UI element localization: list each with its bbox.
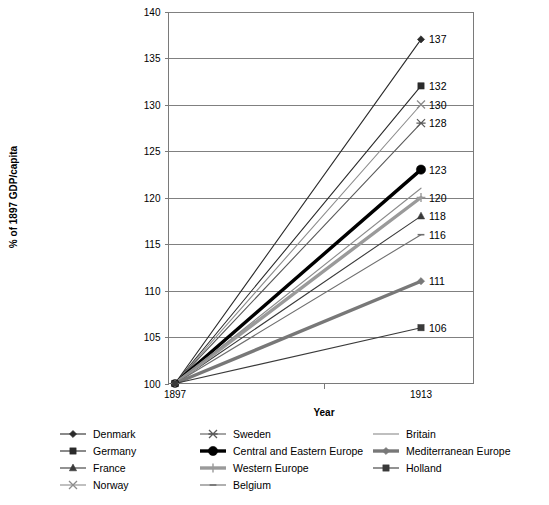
- series-line-belgium: [175, 235, 421, 384]
- gridlines-group: [169, 13, 474, 338]
- y-tick-label-125: 125: [144, 146, 161, 157]
- legend-item-belgium[interactable]: Belgium: [200, 479, 271, 491]
- legend: DenmarkGermanyFranceNorwaySwedenCentral …: [60, 428, 511, 491]
- legend-marker-germany: [70, 448, 76, 454]
- y-tick-label-105: 105: [144, 332, 161, 343]
- y-tick-label-140: 140: [144, 7, 161, 18]
- legend-item-britain[interactable]: Britain: [373, 428, 436, 440]
- y-tick-label-100: 100: [144, 379, 161, 390]
- legend-label-britain: Britain: [406, 428, 436, 440]
- series-line-sweden: [175, 123, 421, 383]
- x-tick-label-1897: 1897: [164, 389, 187, 400]
- legend-marker-central-and-eastern-europe: [208, 446, 217, 455]
- legend-item-norway[interactable]: Norway: [60, 479, 129, 491]
- legend-label-france: France: [93, 462, 126, 474]
- series-end-marker-sweden: [416, 119, 425, 127]
- series-end-marker-central-and-eastern-europe: [416, 165, 425, 174]
- legend-marker-western-europe: [209, 464, 218, 473]
- series-end-marker-denmark: [417, 36, 424, 43]
- chart-container: 100105110115120125130135140 137132118130…: [0, 0, 549, 505]
- data-label-france: 118: [429, 210, 446, 222]
- legend-label-belgium: Belgium: [233, 479, 271, 491]
- data-point-labels-group: 137132118130128123120116111106: [429, 33, 447, 333]
- y-tick-label-120: 120: [144, 193, 161, 204]
- data-label-denmark: 137: [429, 33, 447, 45]
- legend-label-norway: Norway: [93, 479, 129, 491]
- data-label-belgium: 116: [429, 229, 446, 241]
- legend-label-western-europe: Western Europe: [233, 462, 309, 474]
- legend-marker-denmark: [69, 430, 76, 437]
- legend-item-denmark[interactable]: Denmark: [60, 428, 136, 440]
- data-label-norway: 130: [429, 99, 447, 111]
- legend-marker-sweden: [208, 430, 217, 438]
- legend-item-france[interactable]: France: [60, 462, 126, 474]
- legend-marker-mediterranean-europe: [382, 447, 389, 454]
- line-chart-svg: 100105110115120125130135140 137132118130…: [0, 0, 549, 505]
- legend-item-holland[interactable]: Holland: [373, 462, 442, 474]
- series-end-marker-france: [417, 212, 424, 219]
- series-end-marker-germany: [418, 83, 424, 89]
- y-tick-label-130: 130: [144, 100, 161, 111]
- data-label-central-and-eastern-europe: 123: [429, 164, 447, 176]
- series-line-germany: [175, 86, 421, 384]
- legend-item-western-europe[interactable]: Western Europe: [200, 462, 309, 474]
- data-label-sweden: 128: [429, 117, 447, 129]
- legend-label-sweden: Sweden: [233, 428, 271, 440]
- data-label-germany: 132: [429, 80, 447, 92]
- series-end-marker-norway: [417, 101, 425, 109]
- legend-label-holland: Holland: [406, 462, 442, 474]
- data-label-western-europe: 120: [429, 192, 447, 204]
- y-axis-tick-labels: 100105110115120125130135140: [144, 7, 161, 390]
- legend-marker-holland: [383, 465, 389, 471]
- series-line-central-and-eastern-europe: [175, 170, 421, 384]
- legend-item-sweden[interactable]: Sweden: [200, 428, 271, 440]
- series-start-marker-holland: [172, 381, 177, 386]
- x-axis-title: Year: [313, 407, 334, 418]
- series-lines-group: [175, 39, 421, 383]
- legend-item-central-and-eastern-europe[interactable]: Central and Eastern Europe: [200, 445, 363, 457]
- legend-item-mediterranean-europe[interactable]: Mediterranean Europe: [373, 445, 511, 457]
- y-axis-title: % of 1897 GDP/capita: [8, 145, 19, 248]
- y-tick-label-135: 135: [144, 53, 161, 64]
- x-tick-label-1913: 1913: [410, 389, 433, 400]
- legend-label-mediterranean-europe: Mediterranean Europe: [406, 445, 511, 457]
- series-line-britain: [175, 188, 421, 383]
- series-line-france: [175, 216, 421, 383]
- y-tick-label-115: 115: [145, 239, 161, 250]
- data-label-holland: 106: [429, 322, 447, 334]
- legend-label-germany: Germany: [93, 445, 137, 457]
- y-axis-tick-marks: [165, 13, 169, 385]
- legend-label-central-and-eastern-europe: Central and Eastern Europe: [233, 445, 363, 457]
- legend-label-denmark: Denmark: [93, 428, 136, 440]
- y-tick-label-110: 110: [145, 286, 161, 297]
- series-end-marker-holland: [418, 325, 424, 331]
- legend-item-germany[interactable]: Germany: [60, 445, 137, 457]
- data-label-mediterranean-europe: 111: [429, 275, 445, 287]
